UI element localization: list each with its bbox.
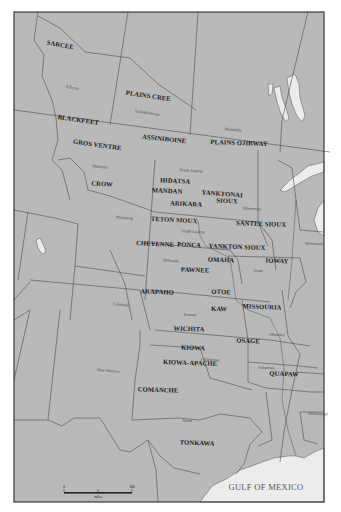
tribe-label-osage: OSAGE <box>236 337 260 345</box>
tribe-label-sioux: SIOUX <box>216 196 238 204</box>
tribe-label-comanche: COMANCHE <box>138 385 179 393</box>
region-label-missouri: Missouri <box>269 332 286 338</box>
tribe-label-otoe: OTOE <box>211 288 231 296</box>
tribe-label-arapaho: ARAPAHO <box>140 287 174 295</box>
tribe-label-ponca: PONCA <box>177 240 201 248</box>
scale-bar-label-end: 300 <box>129 485 135 489</box>
tribe-label-missouria: MISSOURIA <box>242 302 281 310</box>
region-label-mississippi: Mississippi <box>308 411 329 417</box>
tribe-label-crow: CROW <box>91 179 113 187</box>
scale-bar-label-start: 0 <box>63 485 65 489</box>
tribe-label-quapaw: QUAPAW <box>269 369 299 377</box>
tribe-label-ioway: IOWAY <box>265 257 288 265</box>
region-label-minnesota: Minnesota <box>243 206 262 212</box>
region-label-kansas: Kansas <box>184 312 197 317</box>
tribe-label-omaha: OMAHA <box>208 256 235 264</box>
region-label-wisconsin: Wisconsin <box>305 241 324 247</box>
tribe-label-wichita: WICHITA <box>173 324 204 332</box>
gulf-of-mexico-label: GULF OF MEXICO <box>228 482 303 492</box>
scale-bar-line <box>64 492 132 494</box>
scale-bar-unit: miles <box>94 495 102 499</box>
tribe-label-kaw: KAW <box>211 305 228 313</box>
tribe-label-kiowa: KIOWA <box>181 344 205 352</box>
region-label-nebraska: Nebraska <box>163 258 180 264</box>
region-label-iowa: Iowa <box>254 268 263 273</box>
region-label-texas: Texas <box>182 418 193 423</box>
tribe-label-pawnee: PAWNEE <box>181 266 210 274</box>
tribe-label-tonkawa: TONKAWA <box>180 438 215 446</box>
plains-tribes-map: AlbertaSaskatchewanManitobaMontanaNorth … <box>0 0 341 512</box>
